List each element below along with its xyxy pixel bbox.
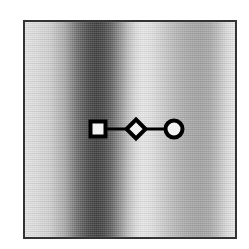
grayscale-gradient-background [25, 22, 235, 237]
figure-root [0, 0, 249, 249]
plot-panel [23, 20, 237, 239]
